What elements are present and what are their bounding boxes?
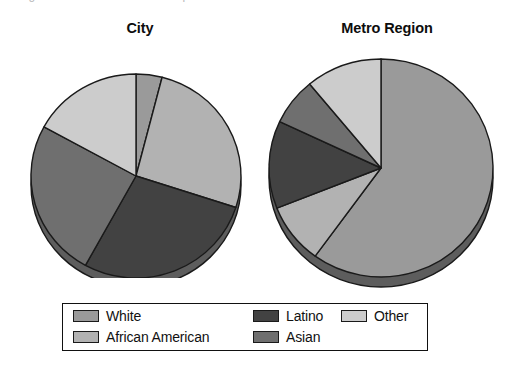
legend-box: White African American Latino Asian Othe… [62,303,428,351]
legend-swatch-latino [253,310,279,322]
pie-city-svg [26,46,248,278]
pie-metro-slices [269,59,493,277]
legend-label-asian: Asian [286,330,320,344]
legend-swatch-asian [253,331,279,343]
legend-label-other: Other [374,309,408,323]
legend-item-asian: Asian [253,330,320,344]
legend-label-latino: Latino [286,309,323,323]
legend-swatch-african-american [73,331,99,343]
pie-chart-figure: Figure: Racial and ethnic composition Ci… [0,0,505,382]
legend-item-african-american: African American [73,330,209,344]
pie-chart-city [26,46,248,278]
pie-city-slices [31,74,241,278]
chart-title-city: City [80,20,200,36]
legend-swatch-other [341,310,367,322]
legend-swatch-white [73,310,99,322]
legend-item-white: White [73,309,141,323]
legend-label-african-american: African American [106,330,209,344]
chart-title-metro: Metro Region [312,20,462,36]
cropped-caption-text: Figure: Racial and ethnic composition [18,0,226,2]
pie-metro-svg [262,42,504,290]
pie-chart-metro [262,42,504,290]
legend-item-latino: Latino [253,309,323,323]
legend-item-other: Other [341,309,408,323]
legend-label-white: White [106,309,141,323]
